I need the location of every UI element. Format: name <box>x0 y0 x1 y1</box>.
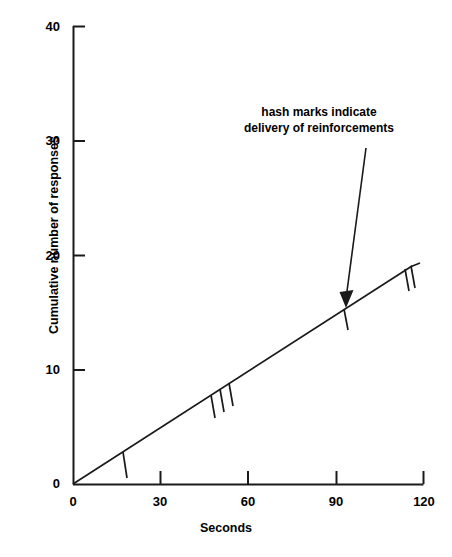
x-tick-label-60: 60 <box>218 495 278 508</box>
hash-mark-47s <box>211 395 215 418</box>
annotation-text: hash marks indicate delivery of reinforc… <box>203 105 435 137</box>
hash-mark-115s <box>411 266 415 288</box>
hash-mark-92s <box>344 309 348 330</box>
hash-mark-53s <box>229 383 233 406</box>
x-axis-ticks <box>161 471 424 484</box>
annotation-text-line-2: delivery of reinforcements <box>203 121 435 137</box>
hash-marks-group <box>123 266 415 478</box>
annotation-arrow-shaft <box>347 148 367 295</box>
annotation-arrow <box>340 148 367 308</box>
chart-plot-area <box>0 0 452 557</box>
hash-mark-50s <box>220 389 224 412</box>
y-tick-label-0: 0 <box>14 477 60 490</box>
hash-mark-113s <box>405 269 409 291</box>
annotation-text-line-1: hash marks indicate <box>203 105 435 121</box>
cumulative-record-chart: 40 30 20 10 0 0 30 60 90 120 Cumulative … <box>0 0 452 557</box>
x-tick-label-90: 90 <box>306 495 366 508</box>
y-axis-title: Cumulative number of responses <box>47 85 61 385</box>
y-axis-ticks <box>73 27 85 371</box>
x-axis-title: Seconds <box>0 521 452 535</box>
x-tick-label-0: 0 <box>43 495 103 508</box>
x-tick-label-120: 120 <box>394 495 452 508</box>
cumulative-response-line <box>73 266 412 484</box>
x-tick-label-30: 30 <box>130 495 190 508</box>
y-tick-label-40: 40 <box>14 20 60 33</box>
hash-mark-17s <box>123 452 127 478</box>
